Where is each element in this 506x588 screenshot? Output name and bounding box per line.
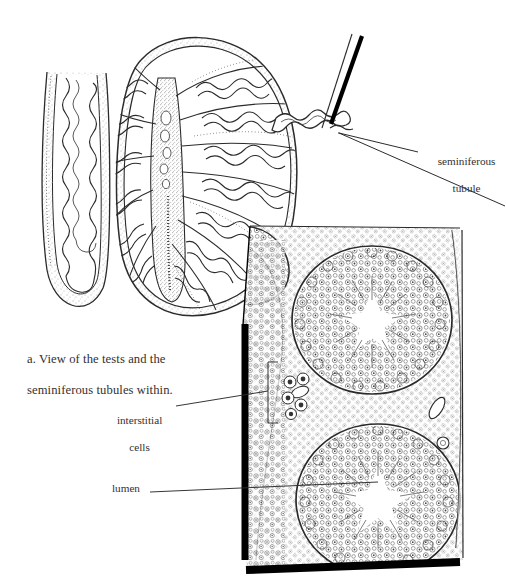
anatomy-figure: a. View of the tests and the seminiferou… (0, 0, 506, 588)
label-seminiferous-tubule-line-1: seminiferous (438, 155, 496, 167)
caption-line-2: seminiferous tubules within. (14, 383, 173, 398)
label-seminiferous-tubule: seminiferous tubule (419, 141, 503, 209)
label-interstitial-cells-line-2: cells (129, 441, 150, 453)
label-interstitial-cells: interstitial cells (96, 400, 172, 468)
figure-illustration (0, 0, 506, 588)
label-interstitial-cells-line-1: interstitial (117, 414, 162, 426)
label-lumen: lumen (112, 482, 140, 496)
caption-line-1: a. View of the tests and the (27, 352, 166, 366)
efferent-ductules (272, 110, 353, 132)
interstitial-cell-column (243, 240, 285, 570)
label-seminiferous-tubule-line-2: tubule (453, 182, 481, 194)
vas-deferens-pointer (331, 36, 362, 124)
epididymis (42, 72, 110, 306)
callout-to-seminiferous-label (339, 133, 418, 152)
seminiferous-tubule-micrograph (222, 220, 473, 580)
